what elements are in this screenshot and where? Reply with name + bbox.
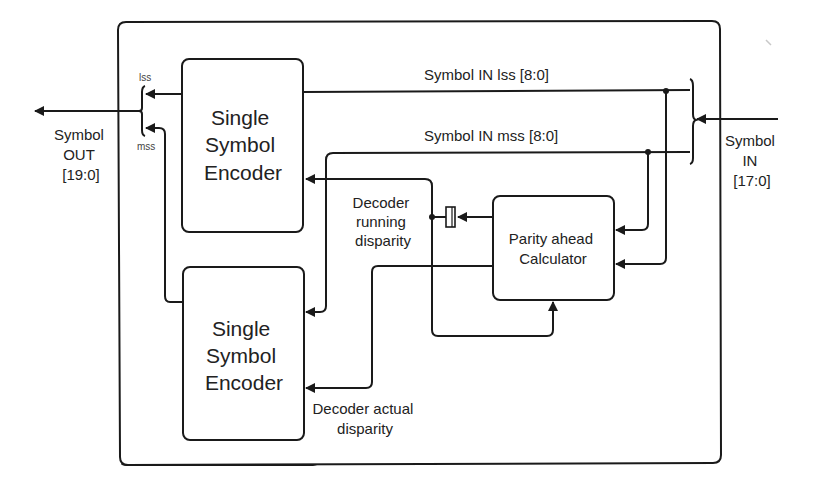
diagram-main: Single Symbol Encoder Single Symbol Enco…	[0, 0, 815, 481]
label-symbol-in-lss: Symbol IN lss [8:0]	[424, 66, 549, 83]
label-symbol-in-mss: Symbol IN mss [8:0]	[424, 127, 558, 144]
label-out-mss: mss	[137, 141, 155, 152]
label-running-disparity: Decoder running disparity	[353, 194, 414, 249]
register-flipflop	[446, 207, 455, 227]
scan-artifact	[766, 40, 771, 45]
encoder-top-label: Single Symbol Encoder	[204, 106, 282, 184]
label-out-lss: lss	[139, 72, 151, 83]
label-symbol-out: Symbol OUT [19:0]	[54, 126, 108, 183]
encoder-bottom-label: Single Symbol Encoder	[205, 317, 283, 394]
parity-calculator-block	[493, 196, 614, 300]
label-symbol-in: Symbol IN [17:0]	[725, 132, 779, 189]
